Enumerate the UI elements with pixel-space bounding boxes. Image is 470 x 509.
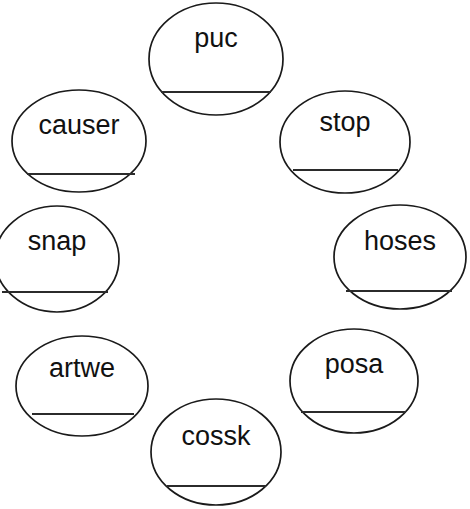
bubble-snap[interactable]: snap [0, 206, 119, 312]
worksheet-canvas: pucstophosesposacosskartwesnapcauser [0, 0, 470, 509]
bubble-causer[interactable]: causer [12, 90, 146, 192]
bubble-outline [334, 205, 466, 309]
bubble-outline [12, 90, 146, 192]
bubble-word-label: posa [325, 349, 385, 379]
bubble-posa[interactable]: posa [290, 329, 418, 433]
word-circle-diagram: pucstophosesposacosskartwesnapcauser [0, 0, 470, 509]
bubble-word-label: causer [38, 110, 119, 140]
bubble-word-label: artwe [49, 353, 115, 383]
bubble-outline [0, 206, 119, 312]
bubble-outline [16, 336, 148, 436]
bubble-word-label: hoses [364, 226, 436, 256]
bubble-puc[interactable]: puc [149, 3, 283, 115]
bubble-outline [151, 399, 281, 505]
bubble-hoses[interactable]: hoses [334, 205, 466, 309]
bubble-word-label: stop [319, 107, 370, 137]
bubble-cossk[interactable]: cossk [151, 399, 281, 505]
bubble-word-label: snap [28, 226, 87, 256]
bubble-outline [149, 3, 283, 115]
bubble-word-label: cossk [181, 421, 251, 451]
bubbles-layer: pucstophosesposacosskartwesnapcauser [0, 3, 466, 505]
bubble-outline [290, 329, 418, 433]
bubble-artwe[interactable]: artwe [16, 336, 148, 436]
bubble-stop[interactable]: stop [280, 91, 410, 193]
bubble-word-label: puc [194, 23, 238, 53]
